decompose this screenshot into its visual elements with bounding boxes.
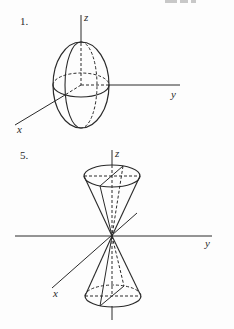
textbook-figure-page: 1. z y x: [0, 0, 234, 329]
bottom-cone-rim: [85, 296, 141, 307]
x-axis: [52, 213, 137, 288]
double-cone-drawing: [0, 0, 234, 329]
